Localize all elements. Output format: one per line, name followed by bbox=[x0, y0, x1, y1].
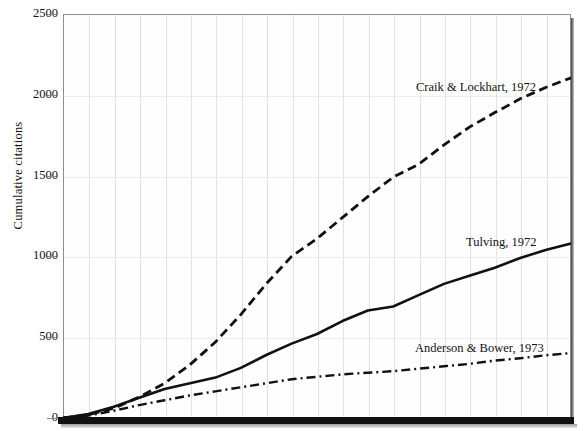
y-tick-mark bbox=[47, 95, 56, 96]
vertical-gridline bbox=[420, 15, 421, 418]
vertical-gridline bbox=[191, 15, 192, 418]
vertical-gridline bbox=[369, 15, 370, 418]
vertical-gridline bbox=[521, 15, 522, 418]
series-label-tulving: Tulving, 1972 bbox=[466, 235, 536, 250]
plot-area bbox=[63, 14, 571, 418]
horizontal-gridline bbox=[64, 96, 570, 97]
horizontal-gridline bbox=[64, 257, 570, 258]
y-tick-mark bbox=[47, 418, 56, 419]
y-tick-mark bbox=[47, 256, 56, 257]
vertical-gridline bbox=[496, 15, 497, 418]
y-tick-label: 0 bbox=[16, 411, 58, 423]
vertical-gridline bbox=[394, 15, 395, 418]
y-tick-mark bbox=[47, 176, 56, 177]
y-axis-tick-group: 05001000150020002500 bbox=[0, 0, 58, 431]
vertical-gridline bbox=[343, 15, 344, 418]
citation-growth-chart: Cumulative citations 0500100015002000250… bbox=[0, 0, 588, 431]
vertical-gridline bbox=[89, 15, 90, 418]
series-label-anderson-bower: Anderson & Bower, 1973 bbox=[415, 341, 544, 356]
vertical-gridline bbox=[166, 15, 167, 418]
vertical-gridline bbox=[242, 15, 243, 418]
y-tick-label: 1500 bbox=[16, 169, 58, 181]
horizontal-gridline bbox=[64, 177, 570, 178]
vertical-gridline bbox=[547, 15, 548, 418]
vertical-gridline bbox=[470, 15, 471, 418]
vertical-gridline bbox=[216, 15, 217, 418]
y-tick-mark bbox=[47, 337, 56, 338]
y-tick-label: 1000 bbox=[16, 249, 58, 261]
gridlines bbox=[64, 15, 570, 418]
x-axis-bar bbox=[58, 417, 574, 424]
vertical-gridline bbox=[445, 15, 446, 418]
y-tick-label: 2500 bbox=[16, 7, 58, 19]
vertical-gridline bbox=[318, 15, 319, 418]
plot-right-shadow bbox=[571, 18, 574, 422]
y-tick-label: 500 bbox=[16, 330, 58, 342]
vertical-gridline bbox=[140, 15, 141, 418]
vertical-gridline bbox=[267, 15, 268, 418]
series-label-craik-lockhart: Craik & Lockhart, 1972 bbox=[416, 80, 536, 95]
vertical-gridline bbox=[115, 15, 116, 418]
vertical-gridline bbox=[293, 15, 294, 418]
y-tick-label: 2000 bbox=[16, 88, 58, 100]
x-axis-bar-shadow bbox=[61, 424, 577, 428]
y-tick-mark bbox=[47, 14, 56, 15]
horizontal-gridline bbox=[64, 338, 570, 339]
